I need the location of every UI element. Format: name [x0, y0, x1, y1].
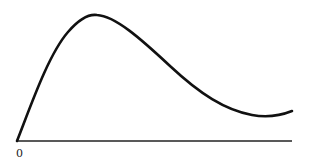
origin-label: 0: [16, 148, 23, 159]
curve: [17, 15, 292, 141]
curve-diagram: [0, 0, 309, 163]
